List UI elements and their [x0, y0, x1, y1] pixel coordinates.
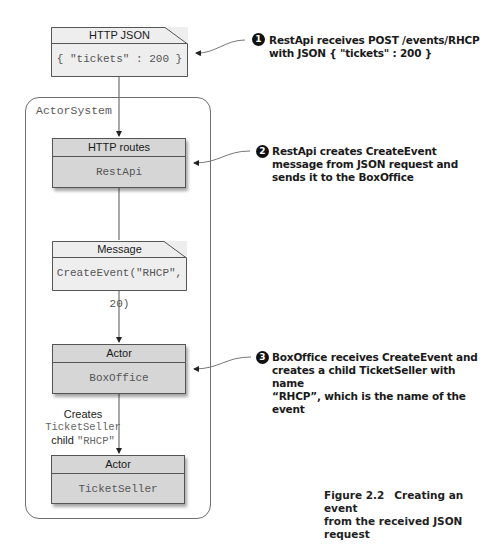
callout-1-text: RestApi receives POST /events/RHCP with …: [269, 34, 479, 60]
edge-label-code: "RHCP": [77, 435, 115, 447]
caption-text: from the received JSON request: [324, 515, 489, 541]
callout-line: RestApi creates CreateEvent: [272, 145, 458, 158]
callout-line: with JSON { "tickets" : 200 }: [269, 47, 479, 60]
figure-caption: Figure 2.2Creating an event from the rec…: [324, 489, 489, 541]
http-routes-node: HTTP routes RestApi: [52, 138, 186, 188]
edge-label-prefix: child: [51, 434, 77, 446]
node-body: TicketSeller: [52, 474, 184, 505]
callout-line: “RHCP”, which is the name of the event: [272, 390, 489, 416]
caption-line: Figure 2.2Creating an event: [324, 489, 489, 515]
callout-number-2: 2: [256, 145, 269, 158]
node-header: Message: [52, 241, 187, 258]
callout-line: RestApi receives POST /events/RHCP: [269, 34, 479, 47]
box-office-node: Actor BoxOffice: [52, 344, 186, 394]
callout-line: creates a child TicketSeller with name: [272, 364, 489, 390]
callout-line: sends it to the BoxOffice: [272, 171, 458, 184]
node-body: RestApi: [53, 157, 185, 188]
node-body: BoxOffice: [53, 363, 185, 394]
node-header: HTTP JSON: [51, 27, 188, 44]
callout-number-3: 3: [256, 351, 269, 364]
callout-number-1: 1: [252, 33, 265, 46]
node-body: CreateEvent("RHCP", 20): [52, 258, 187, 320]
figure-number: Figure 2.2: [324, 489, 384, 501]
ticket-seller-node: Actor TicketSeller: [51, 455, 185, 504]
callout-line: message from JSON request and: [272, 158, 458, 171]
node-header: Actor: [53, 345, 185, 363]
edge-label-line3: child "RHCP": [38, 434, 128, 448]
node-body: { "tickets" : 200 }: [51, 44, 188, 75]
callout-2-text: RestApi creates CreateEvent message from…: [272, 145, 458, 184]
callout-line: BoxOffice receives CreateEvent and: [272, 351, 489, 364]
node-header: Actor: [52, 456, 184, 474]
http-json-node: HTTP JSON { "tickets" : 200 }: [51, 27, 188, 77]
creates-edge-label: Creates TicketSeller child "RHCP": [38, 408, 128, 448]
callout-3-text: BoxOffice receives CreateEvent and creat…: [272, 351, 489, 416]
edge-label-line1: Creates: [38, 408, 128, 421]
node-header: HTTP routes: [53, 139, 185, 157]
message-node: Message CreateEvent("RHCP", 20): [52, 241, 187, 291]
actor-system-label: ActorSystem: [36, 104, 112, 117]
edge-label-line2: TicketSeller: [38, 421, 128, 434]
